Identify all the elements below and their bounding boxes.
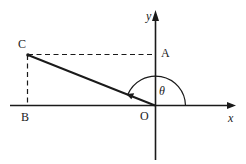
y-axis-label: y [146,10,151,22]
x-axis-arrowhead [227,102,236,109]
point-label-B: B [21,111,29,123]
angle-arc [128,76,186,105]
point-label-A: A [161,47,170,59]
point-label-O: O [140,110,149,122]
vertex-dot-C [26,53,30,57]
x-axis-label: x [228,112,233,124]
geometry-figure: C A B O y x θ [0,0,246,164]
figure-canvas [0,0,246,164]
x-axis [10,102,236,109]
angle-label-theta: θ [159,85,165,97]
segment-OC [28,55,155,106]
y-axis [152,10,159,160]
y-axis-arrowhead [152,10,159,21]
point-label-C: C [18,38,26,50]
